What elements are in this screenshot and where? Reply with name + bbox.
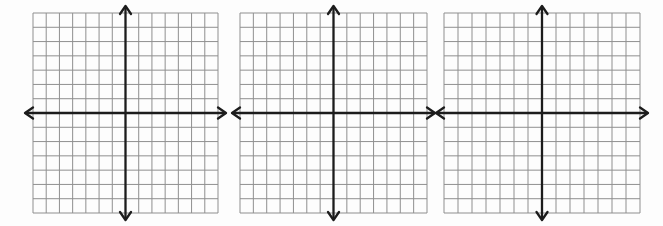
coordinate-grid-2-svg xyxy=(230,3,437,223)
coordinate-grid-1-svg xyxy=(23,3,228,223)
coordinate-grid-2 xyxy=(240,13,427,213)
worksheet-canvas xyxy=(0,0,663,226)
coordinate-grid-3 xyxy=(444,13,640,213)
coordinate-grid-1 xyxy=(33,13,218,213)
coordinate-grid-3-svg xyxy=(434,3,650,223)
